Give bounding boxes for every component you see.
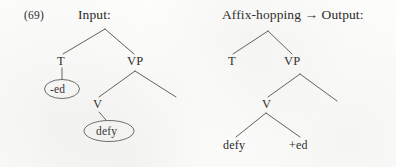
left-vp-right-branch	[135, 71, 176, 97]
syntax-tree-figure: (69) Input: T VP V -ed defy Affix-hoppin…	[0, 0, 396, 167]
example-number: (69)	[24, 10, 44, 22]
left-v-to-defy-branch	[99, 112, 106, 120]
output-node-vp: VP	[284, 55, 301, 68]
right-root-to-t-branch	[233, 31, 268, 54]
output-terminal-defy: defy	[223, 139, 245, 151]
right-root-to-vp-branch	[268, 31, 292, 54]
right-vp-right-branch	[300, 74, 337, 101]
output-panel-heading: Affix-hopping → Output:	[222, 8, 364, 22]
right-v-to-defy-branch	[236, 113, 266, 137]
input-node-vp: VP	[127, 55, 144, 68]
output-terminal-ed: +ed	[289, 139, 308, 151]
input-node-v: V	[93, 98, 102, 111]
left-root-to-t-branch	[63, 29, 105, 54]
output-node-v: V	[262, 98, 271, 111]
output-node-t: T	[228, 55, 236, 68]
left-root-to-vp-branch	[105, 29, 134, 54]
right-v-to-ed-branch	[266, 113, 300, 137]
input-node-t: T	[57, 55, 65, 68]
left-vp-to-v-branch	[99, 71, 135, 97]
right-vp-to-v-branch	[268, 74, 300, 97]
input-terminal-defy: defy	[96, 126, 117, 138]
input-panel-heading: Input:	[78, 8, 111, 22]
input-terminal-ed: -ed	[50, 84, 65, 96]
